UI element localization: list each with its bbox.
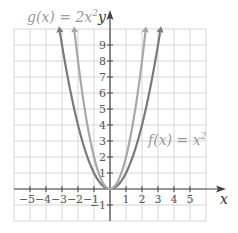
x-axis-label: x (220, 191, 228, 207)
y-tick-label: 6 (99, 87, 106, 100)
y-tick-label: 3 (99, 135, 106, 148)
y-tick-label: 4 (99, 119, 106, 132)
y-tick-label: 2 (99, 151, 106, 164)
x-tick-label: −3 (51, 193, 67, 206)
parabola-graph: −5−4−3−2−112345−1123456789 g(x) = 2x2 f(… (0, 0, 238, 233)
x-tick-label: −5 (19, 193, 35, 206)
y-tick-label: −1 (90, 199, 106, 212)
x-tick-label: 5 (187, 193, 194, 206)
g-function-label: g(x) = 2x2 (27, 8, 98, 25)
function-labels: g(x) = 2x2 f(x) = x2 y x (27, 8, 228, 207)
y-tick-label: 9 (99, 39, 106, 52)
x-tick-label: −4 (35, 193, 51, 206)
x-tick-label: −2 (67, 193, 83, 206)
y-tick-label: 7 (99, 71, 106, 84)
y-tick-label: 8 (99, 55, 106, 68)
x-tick-label: 4 (171, 193, 178, 206)
x-tick-label: 2 (139, 193, 146, 206)
x-tick-label: 3 (155, 193, 162, 206)
y-axis-label: y (97, 9, 107, 25)
x-tick-label: 1 (123, 193, 130, 206)
y-tick-label: 5 (99, 103, 106, 116)
f-function-label: f(x) = x2 (147, 131, 207, 148)
